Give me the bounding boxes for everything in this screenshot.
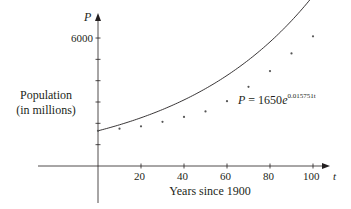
data-point xyxy=(269,70,271,72)
x-tick-label-60: 60 xyxy=(220,170,232,182)
x-axis-title: Years since 1900 xyxy=(150,184,270,199)
y-axis-symbol: P xyxy=(83,10,92,24)
data-points xyxy=(97,35,314,132)
y-axis-arrow-icon xyxy=(95,13,101,21)
data-point xyxy=(97,130,99,132)
data-point xyxy=(183,116,185,118)
x-tick-label-20: 20 xyxy=(134,170,146,182)
x-tick-label-40: 40 xyxy=(177,170,189,182)
y-axis-title-line1: Population xyxy=(4,88,88,103)
y-axis-title-line2: (in millions) xyxy=(4,103,88,118)
equation-exponent: 0.015751t xyxy=(287,92,315,100)
x-tick-label-80: 80 xyxy=(263,170,275,182)
y-axis-title: Population (in millions) xyxy=(4,88,88,118)
data-point xyxy=(290,52,292,54)
data-point xyxy=(118,128,120,130)
data-point xyxy=(312,35,314,37)
data-point xyxy=(204,110,206,112)
x-axis-symbol: t xyxy=(333,170,337,182)
data-point xyxy=(226,100,228,102)
model-equation: P = 1650e0.015751t xyxy=(238,92,316,108)
data-point xyxy=(140,125,142,127)
data-point xyxy=(247,86,249,88)
x-tick-label-100: 100 xyxy=(303,170,320,182)
y-tick-label-6000: 6000 xyxy=(71,32,94,44)
equation-coefficient: = 1650 xyxy=(245,93,282,107)
x-axis-arrow-icon xyxy=(322,163,330,169)
data-point xyxy=(161,121,163,123)
